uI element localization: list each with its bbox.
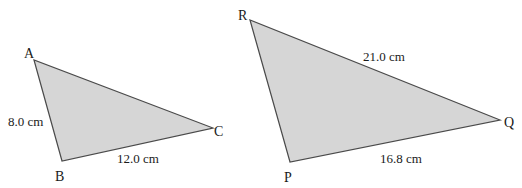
side-label-rq: 21.0 cm [363,49,405,64]
triangle-pqr: R P Q 21.0 cm 16.8 cm [238,8,514,185]
side-label-pq: 16.8 cm [380,151,422,166]
triangle-abc-shape [34,60,213,161]
vertex-label-q: Q [504,115,514,130]
triangle-abc: A B C 8.0 cm 12.0 cm [8,46,223,184]
vertex-label-c: C [214,124,223,139]
similar-triangles-diagram: A B C 8.0 cm 12.0 cm R P Q 21.0 cm 16.8 … [0,0,522,188]
side-label-ab: 8.0 cm [8,114,43,129]
vertex-label-a: A [24,46,35,61]
vertex-label-p: P [284,170,292,185]
triangle-pqr-shape [250,20,500,162]
vertex-label-r: R [238,8,248,23]
vertex-label-b: B [55,169,64,184]
side-label-bc: 12.0 cm [117,151,159,166]
